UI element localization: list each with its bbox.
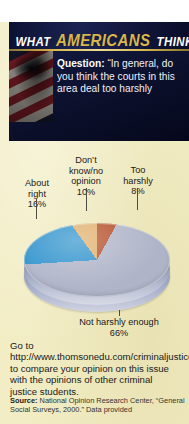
pie-label-too-harshly: Too harshly 8% [116,165,160,197]
pie-label-not-harshly-enough: Not harshly enough 66% [56,317,182,338]
source-label: Source: [10,396,38,405]
goto-url-text: Go to http://www.thomsonedu.com/criminal… [10,340,182,397]
banner-word-americans: Americans [56,33,150,49]
american-flag-photo [9,51,53,122]
figure-header-banner: WhatAmericansThink [9,22,189,50]
pie-chart [0,196,189,318]
top-white-gutter [0,0,189,22]
pie-top-face [24,223,170,297]
question-panel: Question: “In general, do you think the … [9,51,189,141]
banner-word-think: Think [156,36,189,49]
flag-vignette [9,51,53,122]
question-text-head: Question: “In general, do you think the … [57,58,185,96]
banner-word-what: What [16,36,51,49]
banner-title: WhatAmericansThink [14,33,189,49]
source-citation: Source: National Opinion Research Center… [10,397,186,415]
question-label: Question: [57,58,105,69]
what-americans-think-figure: WhatAmericansThink Question: “In general… [0,0,189,424]
